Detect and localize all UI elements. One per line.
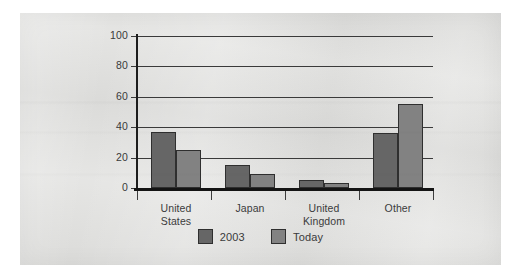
x-axis-label-united-kingdom-line2: Kingdom [283, 215, 365, 228]
bar-japan-2003 [225, 165, 250, 188]
x-axis-label-japan-line1: Japan [209, 202, 291, 215]
screenshot-root: 100 80 60 40 20 0 [0, 0, 524, 276]
plot-area: United States Japan United Kingdom Other [137, 36, 433, 188]
legend-swatch-2003-icon [198, 229, 213, 244]
y-tick-label-80: 80 [88, 59, 128, 71]
gridline-100 [137, 36, 433, 37]
x-axis-label-other-line1: Other [357, 202, 439, 215]
x-tick-4 [433, 191, 434, 200]
y-tick-label-100: 100 [88, 29, 128, 41]
bar-united-kingdom-2003 [299, 180, 324, 188]
y-tick-label-0: 0 [88, 181, 128, 193]
y-tick-label-60: 60 [88, 90, 128, 102]
bar-chart: 100 80 60 40 20 0 [20, 13, 501, 265]
gridline-40 [137, 127, 433, 128]
x-axis-label-united-kingdom: United Kingdom [283, 202, 365, 227]
bar-other-today [398, 104, 423, 188]
x-tick-0 [137, 191, 138, 200]
legend-label-2003: 2003 [220, 231, 245, 243]
bar-japan-today [250, 174, 275, 188]
y-tick-label-40: 40 [88, 120, 128, 132]
x-axis-label-united-states-line2: States [135, 215, 217, 228]
y-tick-label-20: 20 [88, 151, 128, 163]
x-tick-3 [359, 191, 360, 200]
bar-other-2003 [373, 133, 398, 188]
x-axis-label-united-kingdom-line1: United [283, 202, 365, 215]
bar-united-states-2003 [151, 132, 176, 188]
y-axis-labels: 100 80 60 40 20 0 [82, 36, 128, 188]
x-tick-2 [285, 191, 286, 200]
gridline-60 [137, 97, 433, 98]
bar-united-states-today [176, 150, 201, 188]
legend-label-today: Today [293, 231, 323, 243]
legend-item-2003: 2003 [198, 229, 245, 244]
x-axis-label-other: Other [357, 202, 439, 215]
legend-item-today: Today [271, 229, 323, 244]
x-axis-label-united-states-line1: United [135, 202, 217, 215]
x-axis-line [134, 188, 434, 191]
x-axis-label-japan: Japan [209, 202, 291, 215]
chart-panel: 100 80 60 40 20 0 [20, 13, 501, 265]
y-axis-line [136, 34, 138, 190]
bar-united-kingdom-today [324, 183, 349, 188]
legend-swatch-today-icon [271, 229, 286, 244]
x-axis-label-united-states: United States [135, 202, 217, 227]
x-tick-1 [211, 191, 212, 200]
chart-legend: 2003 Today [20, 229, 501, 244]
gridline-80 [137, 66, 433, 67]
